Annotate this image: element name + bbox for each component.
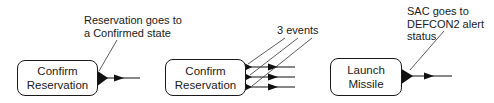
state-box-confirm-reservation-multi: Confirm Reservation xyxy=(165,59,246,96)
box-label-line2: Reservation xyxy=(27,78,88,92)
box-label-line1: Launch xyxy=(347,63,385,77)
annotation-line1: Reservation goes to xyxy=(84,14,182,27)
event-outputs-2 xyxy=(244,38,312,91)
annotation-line1: 3 events xyxy=(277,24,319,37)
box-label-line2: Missile xyxy=(347,77,385,91)
box-label-line2: Reservation xyxy=(175,78,236,92)
annotation-line2: a Confirmed state xyxy=(84,27,182,40)
box-label-line1: Confirm xyxy=(27,64,88,78)
annotation-line2: DEFCON2 alert xyxy=(407,18,484,31)
event-output-1 xyxy=(96,40,140,87)
annotation-3-events: 3 events xyxy=(277,24,319,37)
annotation-line1: SAC goes to xyxy=(407,5,484,18)
state-box-confirm-reservation: Confirm Reservation xyxy=(17,60,98,96)
annotation-confirmed-state: Reservation goes to a Confirmed state xyxy=(84,14,182,39)
annotation-defcon2: SAC goes to DEFCON2 alert status xyxy=(407,5,484,43)
state-box-launch-missile: Launch Missile xyxy=(330,58,402,96)
annotation-line3: status xyxy=(407,30,484,43)
box-label-line1: Confirm xyxy=(175,64,236,78)
